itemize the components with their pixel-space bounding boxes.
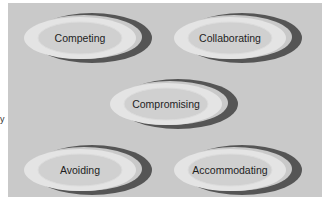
node-label: Competing: [30, 12, 130, 64]
node-compromising: Compromising: [108, 78, 238, 130]
node-label: Compromising: [116, 78, 216, 130]
node-label: Collaborating: [180, 12, 280, 64]
cropped-text-fragment: y: [0, 114, 5, 124]
node-accommodating: Accommodating: [172, 144, 302, 196]
node-competing: Competing: [22, 12, 152, 64]
node-collaborating: Collaborating: [172, 12, 302, 64]
node-label: Accommodating: [180, 144, 280, 196]
node-label: Avoiding: [30, 144, 130, 196]
node-avoiding: Avoiding: [22, 144, 152, 196]
